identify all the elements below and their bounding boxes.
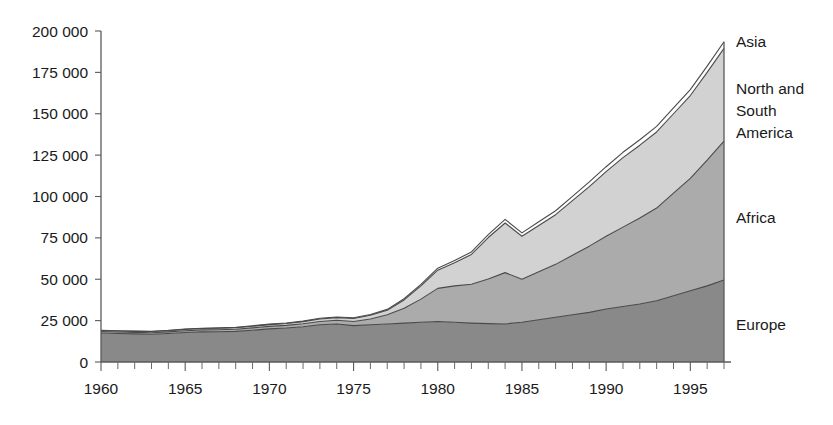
y-tick-label: 100 000: [32, 188, 88, 205]
x-axis-tick-labels: 19601965197019751980198519901995: [84, 380, 708, 397]
x-tick-label: 1970: [252, 380, 287, 397]
y-axis-tick-labels: 025 00050 00075 000100 000125 000150 000…: [32, 23, 88, 371]
x-tick-label: 1975: [336, 380, 370, 397]
series-label-africa: Africa: [736, 209, 776, 226]
x-tick-label: 1995: [673, 380, 707, 397]
y-tick-label: 175 000: [32, 64, 88, 81]
y-tick-label: 125 000: [32, 147, 88, 164]
x-tick-label: 1985: [505, 380, 539, 397]
series-label-north-and-south-america: North andSouthAmerica: [736, 80, 804, 141]
series-label-europe: Europe: [736, 316, 786, 333]
series-labels: AsiaNorth andSouthAmericaAfricaEurope: [736, 33, 804, 333]
chart-canvas: 025 00050 00075 000100 000125 000150 000…: [0, 0, 833, 425]
series-label-line: South: [736, 102, 777, 119]
y-tick-label: 75 000: [41, 229, 89, 246]
stacked-area-chart: 025 00050 00075 000100 000125 000150 000…: [0, 0, 833, 425]
y-tick-label: 200 000: [32, 23, 88, 40]
y-tick-label: 50 000: [41, 271, 89, 288]
y-tick-label: 25 000: [41, 312, 89, 329]
series-label-asia: Asia: [736, 33, 767, 50]
series-label-line: Africa: [736, 209, 776, 226]
x-tick-label: 1980: [421, 380, 456, 397]
x-tick-label: 1960: [84, 380, 119, 397]
x-tick-label: 1965: [168, 380, 202, 397]
y-tick-label: 0: [79, 354, 88, 371]
series-label-line: North and: [736, 80, 804, 97]
area-layers: [101, 42, 724, 362]
series-label-line: Asia: [736, 33, 767, 50]
series-label-line: Europe: [736, 316, 786, 333]
y-tick-label: 150 000: [32, 105, 88, 122]
series-label-line: America: [736, 124, 793, 141]
x-tick-label: 1990: [589, 380, 624, 397]
